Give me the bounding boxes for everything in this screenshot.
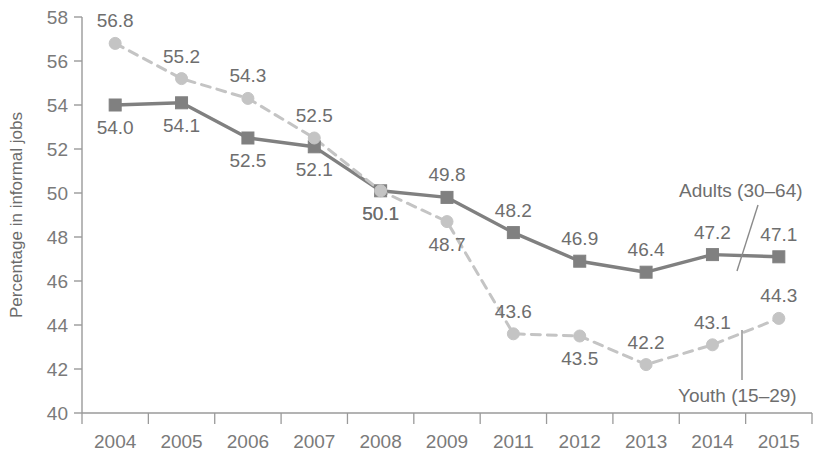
data-point-label: 47.1 [760,224,797,245]
data-point-marker [176,97,188,109]
series-line [115,43,779,364]
y-axis-ticks: 40424446485052545658 [47,7,82,424]
series-lines [115,43,779,364]
line-chart: Percentage in informal jobs 404244464850… [0,0,819,453]
data-point-marker [574,255,586,267]
data-point-marker [507,227,519,239]
data-point-marker [109,99,121,111]
data-point-label: 52.1 [296,159,333,180]
data-point-label: 54.3 [229,65,266,86]
data-point-marker [507,328,519,340]
data-point-label: 48.2 [495,200,532,221]
data-point-label: 49.8 [429,164,466,185]
data-point-label: 54.0 [97,117,134,138]
y-tick-label: 44 [47,315,69,336]
data-point-marker [375,185,387,197]
data-point-label: 52.5 [229,150,266,171]
data-point-marker [441,191,453,203]
y-tick-label: 48 [47,227,68,248]
data-point-label: 43.6 [495,301,532,322]
y-tick-label: 56 [47,51,68,72]
x-tick-label: 2007 [293,431,335,452]
data-point-marker [242,92,254,104]
data-point-marker [574,330,586,342]
x-tick-label: 2009 [426,431,468,452]
data-point-label: 47.2 [694,222,731,243]
data-point-marker [242,132,254,144]
data-point-marker [773,312,785,324]
x-tick-label: 2012 [559,431,601,452]
x-tick-label: 2014 [691,431,734,452]
x-tick-label: 2008 [359,431,401,452]
data-point-label: 46.4 [628,239,665,260]
y-tick-label: 54 [47,95,69,116]
data-point-marker [176,73,188,85]
y-tick-label: 46 [47,271,68,292]
data-point-label: 46.9 [561,228,598,249]
data-point-marker [109,37,121,49]
x-tick-label: 2005 [160,431,202,452]
data-point-marker [308,132,320,144]
data-point-label: 44.3 [760,285,797,306]
data-point-label: 54.1 [163,115,200,136]
data-point-label: 42.2 [628,332,665,353]
x-tick-label: 2011 [493,431,534,452]
data-point-marker [706,249,718,261]
data-point-label: 43.5 [561,348,598,369]
x-axis-ticks: 2004200520062007200820092011201220132014… [82,413,812,452]
data-point-label: 48.7 [429,234,466,255]
data-point-marker [640,359,652,371]
y-tick-label: 50 [47,183,68,204]
chart-container: Percentage in informal jobs 404244464850… [0,0,819,453]
y-axis-title: Percentage in informal jobs [7,112,26,318]
x-tick-label: 2013 [625,431,667,452]
adults-series-label: Adults (30–64) [679,180,803,201]
data-point-marker [706,339,718,351]
data-point-label: 43.1 [694,312,731,333]
youth-series-label: Youth (15–29) [678,385,797,406]
y-tick-label: 58 [47,7,68,28]
x-tick-label: 2004 [94,431,137,452]
data-point-marker [773,251,785,263]
y-tick-label: 40 [47,403,68,424]
data-point-label: 55.2 [163,46,200,67]
data-point-label: 52.5 [296,105,333,126]
adults-leader-line [737,205,758,271]
y-tick-label: 42 [47,359,68,380]
data-point-marker [441,216,453,228]
data-point-label: 50.1 [362,203,399,224]
data-point-marker [640,266,652,278]
x-tick-label: 2006 [227,431,269,452]
x-tick-label: 2015 [758,431,800,452]
data-point-label: 56.8 [97,10,134,31]
y-tick-label: 52 [47,139,68,160]
